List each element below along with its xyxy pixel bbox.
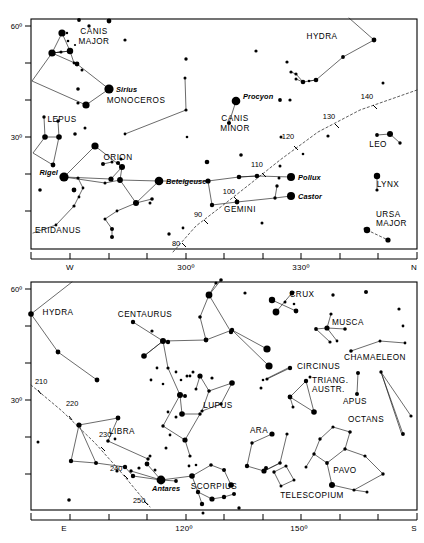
const-label-lepus: LEPUS: [47, 115, 76, 124]
const-label-canis-major-l1: CANIS: [80, 27, 107, 36]
const-label-monoceros: MONOCEROS: [107, 96, 166, 105]
const-label-triang-austr-l2: AUSTR.: [312, 385, 345, 394]
const-label-crux: CRUX: [290, 290, 315, 299]
star-label-castor: Castor: [298, 192, 323, 201]
bottom-panel-svg: 60º 30º E 120º 150º S: [0, 271, 424, 543]
const-label-pavo: PAVO: [333, 466, 356, 475]
ecliptic-label-90: 90: [194, 210, 202, 219]
bottom-x-tick-label-s: S: [411, 524, 417, 533]
const-label-eridanus: ERIDANUS: [35, 226, 81, 235]
top-named-star-labels: Sirius Procyon Rigel Betelgeuse Pollux C…: [39, 85, 323, 201]
const-label-canis-major-l2: MAJOR: [79, 37, 110, 46]
sky-chart-bottom-panel: 60º 30º E 120º 150º S: [0, 271, 424, 543]
bottom-x-axis-ticks: [31, 513, 417, 520]
const-label-triang-austr-l1: TRIANG.: [312, 376, 348, 385]
ecliptic-label-140: 140: [361, 92, 373, 101]
top-panel-svg: 60º 30º W 300º 330º N: [0, 0, 424, 272]
bottom-plot-frame: [31, 282, 417, 510]
bottom-panel-canvas: 60º 30º E 120º 150º S: [0, 271, 424, 543]
star-label-pollux: Pollux: [298, 173, 322, 182]
const-label-libra: LIBRA: [109, 427, 135, 436]
const-label-circinus: CIRCINUS: [297, 362, 340, 371]
const-label-hydra-bottom: HYDRA: [43, 308, 74, 317]
bottom-x-tick-label-150: 150º: [290, 524, 307, 533]
star-label-rigel: Rigel: [39, 168, 58, 177]
bottom-ecliptic-labels: 210 220 230 240 250: [35, 377, 145, 505]
top-constellation-lines: [32, 18, 400, 240]
bottom-y-tick-label-60: 60º: [11, 285, 22, 294]
ecliptic-label-120: 120: [282, 132, 294, 141]
bottom-x-tick-label-120: 120º: [175, 524, 192, 533]
const-label-chamaeleon: CHAMAELEON: [344, 353, 406, 362]
star-label-procyon: Procyon: [243, 92, 274, 101]
ecliptic-label-220: 220: [66, 399, 78, 408]
star-label-antares: Antares: [151, 484, 180, 493]
const-label-leo: LEO: [369, 140, 387, 149]
const-label-lupus: LUPUS: [203, 401, 233, 410]
ecliptic-label-210: 210: [35, 377, 47, 386]
const-label-telescopium: TELESCOPIUM: [280, 491, 344, 500]
top-y-tick-label-30: 30º: [11, 133, 22, 142]
ecliptic-label-100: 100: [223, 187, 235, 196]
const-label-orion: ORION: [103, 153, 132, 162]
const-label-gemini: GEMINI: [224, 205, 256, 214]
const-label-canis-minor-l1: CANIS: [221, 114, 248, 123]
const-label-lynx: LYNX: [377, 180, 400, 189]
const-label-apus: APUS: [343, 397, 367, 406]
ecliptic-label-110: 110: [251, 160, 263, 169]
const-label-ursa-major-l1: URSA: [376, 210, 401, 219]
top-y-tick-label-60: 60º: [11, 22, 22, 31]
bottom-y-axis-ticks: [25, 289, 31, 474]
const-label-ara: ARA: [250, 426, 268, 435]
bottom-x-tick-label-e: E: [61, 524, 67, 533]
star-label-betelgeuse: Betelgeuse: [166, 177, 206, 186]
const-label-octans: OCTANS: [348, 415, 384, 424]
top-plot-frame: [31, 19, 417, 249]
ecliptic-label-250: 250: [133, 496, 145, 505]
top-ecliptic-ticks: [182, 105, 377, 247]
bottom-y-tick-label-30: 30º: [11, 396, 22, 405]
top-ecliptic-labels: 80 90 100 110 120 130 140: [172, 92, 373, 248]
top-x-axis-ticks: [31, 252, 417, 259]
const-label-hydra: HYDRA: [307, 32, 338, 41]
bottom-ecliptic-ticks: [38, 390, 148, 505]
ecliptic-label-230: 230: [99, 430, 111, 439]
ecliptic-label-240: 240: [110, 464, 122, 473]
top-y-axis-ticks: [25, 26, 31, 211]
const-label-canis-minor-l2: MINOR: [220, 124, 250, 133]
const-label-scorpius: SCORPIUS: [191, 482, 237, 491]
bottom-named-star-labels: Antares: [151, 484, 180, 493]
top-panel-canvas: 60º 30º W 300º 330º N: [0, 0, 424, 272]
const-label-musca: MUSCA: [332, 318, 364, 327]
sky-chart-top-panel: 60º 30º W 300º 330º N: [0, 0, 424, 272]
bottom-ecliptic-line: [31, 385, 150, 507]
ecliptic-label-80: 80: [172, 239, 180, 248]
const-label-centaurus: CENTAURUS: [118, 310, 172, 319]
const-label-ursa-major-l2: MAJOR: [376, 219, 407, 228]
star-label-sirius: Sirius: [116, 85, 137, 94]
ecliptic-label-130: 130: [323, 112, 335, 121]
